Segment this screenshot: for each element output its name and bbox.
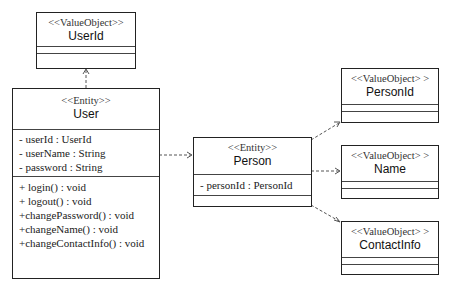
- attributes-section: [342, 182, 438, 189]
- operations-section: [342, 112, 438, 118]
- stereotype-label: <<Entity>>: [13, 89, 159, 107]
- class-header: <<ValueObject>> UserId: [37, 13, 135, 47]
- class-personid[interactable]: <<ValueObject> > PersonId: [341, 68, 439, 123]
- class-header: <<ValueObject> > ContactInfo: [342, 222, 438, 258]
- class-header: <<ValueObject> > Name: [342, 146, 438, 182]
- attribute: - personId : PersonId: [200, 178, 305, 192]
- class-header: <<ValueObject> > PersonId: [342, 69, 438, 105]
- stereotype-label: <<Entity>>: [194, 138, 311, 154]
- attributes-section: [37, 47, 135, 54]
- attributes-section: - userId : UserId - userName : String - …: [13, 130, 159, 177]
- attribute: - password : String: [19, 160, 153, 174]
- class-name: PersonId: [342, 85, 438, 102]
- attributes-section: [342, 258, 438, 265]
- operation: +changeName() : void: [19, 222, 153, 236]
- operations-section: [342, 189, 438, 195]
- class-name: Person: [194, 154, 311, 171]
- operation: + login() : void: [19, 180, 153, 194]
- stereotype-label: <<ValueObject> >: [342, 146, 438, 162]
- class-user[interactable]: <<Entity>> User - userId : UserId - user…: [12, 88, 160, 279]
- class-name: User: [13, 107, 159, 124]
- class-name: UserId: [37, 29, 135, 46]
- operations-section: [342, 265, 438, 271]
- stereotype-label: <<ValueObject> >: [342, 222, 438, 238]
- class-userid[interactable]: <<ValueObject>> UserId: [36, 12, 136, 69]
- class-name-vo[interactable]: <<ValueObject> > Name: [341, 145, 439, 199]
- person-to-contactinfo-dependency: [311, 205, 339, 221]
- class-header: <<Entity>> User: [13, 89, 159, 130]
- operations-section: + login() : void + logout() : void +chan…: [13, 177, 159, 251]
- class-name: Name: [342, 162, 438, 179]
- class-person[interactable]: <<Entity>> Person - personId : PersonId: [193, 137, 312, 207]
- attributes-section: - personId : PersonId: [194, 175, 311, 196]
- person-to-personid-dependency: [311, 123, 339, 140]
- operation: +changePassword() : void: [19, 208, 153, 222]
- attribute: - userName : String: [19, 146, 153, 160]
- operation: +changeContactInfo() : void: [19, 236, 153, 250]
- attribute: - userId : UserId: [19, 132, 153, 146]
- stereotype-label: <<ValueObject>>: [37, 13, 135, 29]
- operations-section: [37, 54, 135, 60]
- class-contactinfo[interactable]: <<ValueObject> > ContactInfo: [341, 221, 439, 275]
- attributes-section: [342, 105, 438, 112]
- stereotype-label: <<ValueObject> >: [342, 69, 438, 85]
- class-header: <<Entity>> Person: [194, 138, 311, 175]
- operations-section: [194, 196, 311, 202]
- class-name: ContactInfo: [342, 238, 438, 255]
- arrowhead-icon: [334, 217, 340, 222]
- operation: + logout() : void: [19, 194, 153, 208]
